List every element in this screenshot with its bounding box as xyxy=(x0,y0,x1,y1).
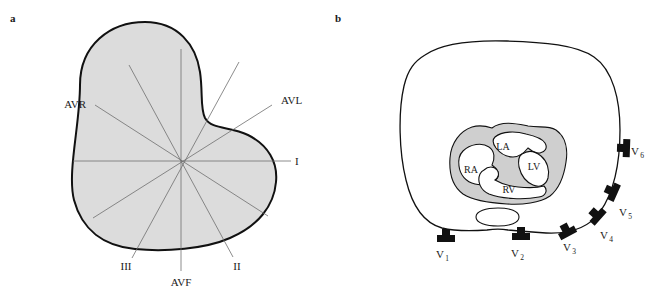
panel-b-letter: b xyxy=(335,12,341,24)
electrode-sub-V1: 1 xyxy=(445,254,449,263)
lead-label-AVR: AVR xyxy=(64,98,86,110)
electrode-label-V3: V xyxy=(563,241,571,253)
electrode-marker-icon xyxy=(437,229,455,242)
chamber-label-RA: RA xyxy=(464,164,479,175)
torso-outline-a xyxy=(72,22,276,250)
electrode-label-V2: V xyxy=(511,247,519,259)
electrode-sub-V3: 3 xyxy=(572,247,576,256)
aorta-oval xyxy=(476,208,519,226)
electrode-label-V5: V xyxy=(619,206,627,218)
lead-label-AVF: AVF xyxy=(171,276,192,288)
chamber-label-RV: RV xyxy=(502,184,516,195)
panel-a: a I II III AVR AVL AVF xyxy=(0,0,332,294)
figure-root: a I II III AVR AVL AVF b xyxy=(0,0,664,294)
chamber-label-LA: LA xyxy=(496,141,510,152)
electrode-V1[interactable] xyxy=(437,229,455,242)
electrode-sub-V6: 6 xyxy=(640,151,644,160)
electrode-sub-V2: 2 xyxy=(520,253,524,262)
panel-a-letter: a xyxy=(10,12,16,24)
electrode-label-V1: V xyxy=(436,248,444,260)
panel-b: b RA LA RV LV V 1 V 2 xyxy=(332,0,664,294)
electrode-sub-V5: 5 xyxy=(628,212,632,221)
electrode-label-V4: V xyxy=(600,229,608,241)
lead-label-I: I xyxy=(295,155,299,167)
chamber-label-LV: LV xyxy=(528,161,541,172)
electrode-sub-V4: 4 xyxy=(609,235,613,244)
lead-label-AVL: AVL xyxy=(281,94,302,106)
lead-label-II: II xyxy=(233,260,241,272)
lead-label-III: III xyxy=(121,260,132,272)
electrode-label-V6: V xyxy=(631,145,639,157)
